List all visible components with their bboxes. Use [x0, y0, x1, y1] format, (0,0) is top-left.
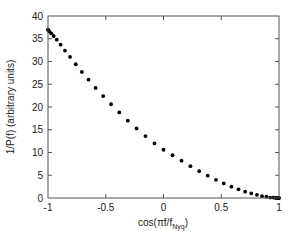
y-axis-label: 1/P(f) (arbitrary units) — [5, 60, 16, 154]
x-tick-label: -0.5 — [97, 202, 115, 213]
y-tick-label: 40 — [32, 11, 44, 22]
x-axis-label: cos(πf/fNyq) — [138, 217, 188, 231]
x-tick-label: 0 — [161, 202, 167, 213]
data-point — [101, 94, 105, 98]
data-point — [206, 174, 210, 178]
data-point — [68, 55, 72, 59]
data-point — [135, 126, 139, 130]
data-point — [197, 169, 201, 173]
data-point — [180, 159, 184, 163]
data-point — [153, 142, 157, 146]
data-point — [144, 134, 148, 138]
data-point — [63, 49, 67, 53]
y-tick-label: 30 — [32, 56, 44, 67]
y-tick-label: 20 — [32, 102, 44, 113]
y-tick-label: 35 — [32, 33, 44, 44]
x-tick-label: 0.5 — [214, 202, 228, 213]
data-point — [171, 153, 175, 157]
data-point — [74, 62, 78, 66]
data-point — [55, 38, 59, 42]
data-point — [109, 102, 113, 106]
axis-ticks: -1-0.500.510510152025303540 — [32, 11, 282, 214]
data-point — [237, 187, 241, 191]
y-tick-label: 25 — [32, 79, 44, 90]
data-point — [255, 193, 259, 197]
data-point — [80, 70, 84, 74]
data-point — [87, 78, 91, 82]
y-axis-label-group: 1/P(f) (arbitrary units) — [5, 60, 16, 154]
x-tick-label: -1 — [44, 202, 53, 213]
chart: 1/P(f) (arbitrary units) -1-0.500.510510… — [0, 0, 293, 241]
data-point — [222, 182, 226, 186]
data-point — [214, 178, 218, 182]
data-point — [59, 43, 63, 47]
data-point — [249, 192, 253, 196]
y-tick-label: 10 — [32, 147, 44, 158]
x-tick-label: 1 — [276, 202, 282, 213]
data-point — [162, 148, 166, 152]
data-point — [230, 185, 234, 189]
data-point — [243, 190, 247, 194]
y-tick-label: 5 — [37, 170, 43, 181]
data-points — [46, 28, 281, 200]
data-point — [189, 164, 193, 168]
data-point — [117, 111, 121, 115]
data-point — [126, 119, 130, 123]
y-tick-label: 0 — [37, 193, 43, 204]
data-point — [94, 86, 98, 90]
plot-frame — [48, 16, 279, 198]
y-tick-label: 15 — [32, 124, 44, 135]
